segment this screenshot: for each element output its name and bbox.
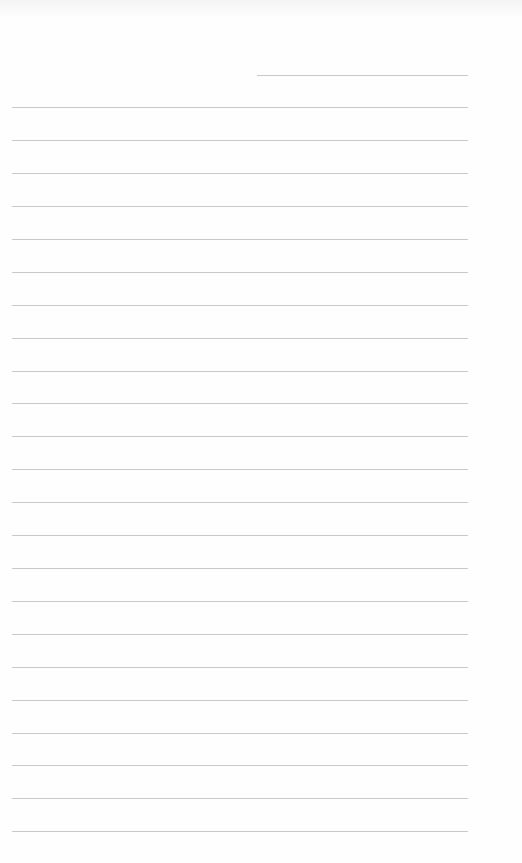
ruled-line xyxy=(12,831,468,832)
ruled-line xyxy=(12,173,468,174)
ruled-line xyxy=(12,140,468,141)
ruled-line xyxy=(12,206,468,207)
ruled-line xyxy=(12,239,468,240)
ruled-line xyxy=(12,338,468,339)
ruled-line xyxy=(12,107,468,108)
ruled-line xyxy=(12,272,468,273)
ruled-line xyxy=(12,601,468,602)
ruled-line xyxy=(12,798,468,799)
ruled-line xyxy=(12,667,468,668)
ruled-line xyxy=(12,733,468,734)
ruled-line xyxy=(12,568,468,569)
ruled-line xyxy=(12,700,468,701)
ruled-line xyxy=(12,502,468,503)
ruled-line xyxy=(12,436,468,437)
ruled-line xyxy=(12,305,468,306)
ruled-line xyxy=(12,535,468,536)
ruled-line xyxy=(12,765,468,766)
ruled-line xyxy=(12,403,468,404)
header-line xyxy=(257,75,468,76)
lined-paper-sheet xyxy=(0,0,522,863)
ruled-line xyxy=(12,371,468,372)
scan-top-edge xyxy=(0,0,522,18)
ruled-line xyxy=(12,634,468,635)
ruled-line xyxy=(12,469,468,470)
